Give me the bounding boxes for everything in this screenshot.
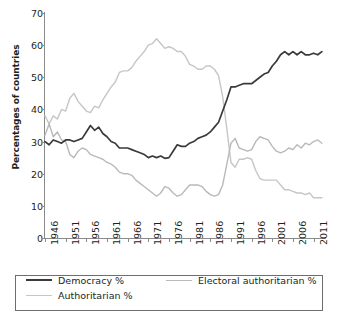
legend-swatch-line-icon <box>26 279 52 281</box>
x-tick-mark <box>272 238 273 242</box>
x-tick-mark <box>314 238 315 242</box>
x-tick-mark <box>128 238 129 242</box>
x-tick-mark <box>210 238 211 242</box>
legend-item-electoral-authoritarian[interactable]: Electoral authoritarian % <box>166 275 317 286</box>
plot-area: 706050403020100 194619511956196119661971… <box>45 13 326 238</box>
x-tick-mark <box>86 238 87 242</box>
legend-item-democracy[interactable]: Democracy % <box>26 275 124 286</box>
x-tick-mark <box>107 238 108 242</box>
x-tick-mark <box>66 238 67 242</box>
x-tick-mark <box>169 238 170 242</box>
legend-label: Authoritarian % <box>58 290 133 301</box>
x-tick-mark <box>45 238 46 242</box>
y-axis-title: Percentages of countries <box>11 17 21 197</box>
legend-label: Democracy % <box>58 275 124 286</box>
legend-item-authoritarian[interactable]: Authoritarian % <box>26 290 133 301</box>
x-tick-mark <box>252 238 253 242</box>
series-line-democracy <box>45 52 322 159</box>
chart-figure: Percentages of countries 706050403020100… <box>0 0 338 316</box>
chart-legend: Democracy %Electoral authoritarian %Auth… <box>15 275 323 311</box>
legend-swatch-line-icon <box>166 280 192 281</box>
legend-swatch-line-icon <box>26 295 52 296</box>
x-tick-mark <box>190 238 191 242</box>
series-line-authoritarian <box>45 39 322 198</box>
series-lines <box>45 13 326 238</box>
x-tick-mark <box>231 238 232 242</box>
x-tick-mark <box>148 238 149 242</box>
legend-label: Electoral authoritarian % <box>198 275 317 286</box>
x-tick-mark <box>293 238 294 242</box>
